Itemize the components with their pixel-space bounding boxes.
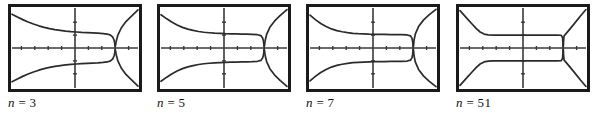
curve-right-upper-tail — [563, 10, 586, 47]
curve-right-lower-tail — [563, 50, 586, 87]
curve-lower-branch — [161, 49, 264, 81]
curve-right-lower-tail — [115, 50, 138, 86]
curve-lower-branch — [460, 49, 563, 85]
curve-upper-branch — [310, 15, 413, 47]
caption-value: 7 — [328, 95, 335, 110]
caption-variable: n — [306, 95, 313, 110]
graph-panel-n-3 — [8, 4, 142, 92]
curve-right-lower-tail — [413, 50, 436, 87]
graph-panel-n-51 — [456, 4, 590, 92]
curve-right-upper-tail — [115, 10, 138, 46]
caption-variable: n — [456, 95, 463, 110]
curve-right-lower-tail — [264, 50, 287, 86]
panel-caption-n-51: n = 51 — [456, 95, 491, 110]
caption-equals: = — [466, 95, 474, 110]
caption-variable: n — [8, 95, 15, 110]
plot-canvas-n-3 — [8, 4, 142, 92]
panel-caption-n-5: n = 5 — [157, 95, 185, 110]
plot-canvas-n-51 — [456, 4, 590, 92]
caption-value: 51 — [478, 95, 492, 110]
caption-value: 5 — [179, 95, 186, 110]
curve-upper-branch — [460, 11, 563, 47]
panel-caption-n-7: n = 7 — [306, 95, 334, 110]
caption-value: 3 — [30, 95, 37, 110]
plot-canvas-n-7 — [306, 4, 440, 92]
graph-panel-n-7 — [306, 4, 440, 92]
curve-right-upper-tail — [264, 10, 287, 46]
calculator-screens-figure: n = 3 n = 5 n = 7 n = 51 — [0, 0, 599, 114]
caption-equals: = — [316, 95, 324, 110]
curve-lower-branch — [12, 50, 115, 82]
curve-upper-branch — [12, 14, 115, 46]
plot-canvas-n-5 — [157, 4, 291, 92]
panel-caption-n-3: n = 3 — [8, 95, 36, 110]
curve-upper-branch — [161, 15, 264, 47]
curve-right-upper-tail — [413, 9, 436, 46]
caption-variable: n — [157, 95, 164, 110]
curve-lower-branch — [310, 49, 413, 81]
graph-panel-n-5 — [157, 4, 291, 92]
caption-equals: = — [18, 95, 26, 110]
caption-equals: = — [167, 95, 175, 110]
